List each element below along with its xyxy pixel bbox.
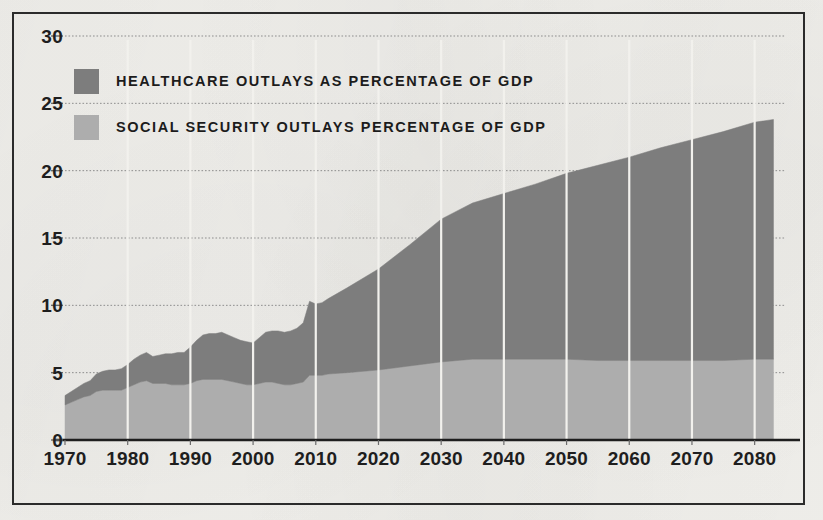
chart-figure: 051015202530 197019801990200020102020203…: [0, 0, 823, 520]
figure-frame: [12, 12, 805, 505]
